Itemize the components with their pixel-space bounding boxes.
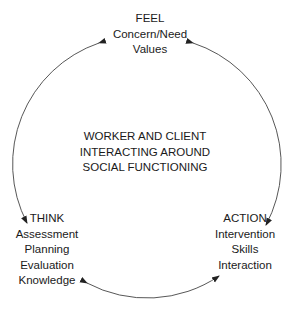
node-action-item: Interaction [200, 258, 289, 274]
node-think-item: Planning [2, 242, 92, 258]
center-line: WORKER AND CLIENT [60, 129, 230, 145]
node-feel: FEEL Concern/Need Values [95, 11, 205, 58]
node-think-item: Knowledge [2, 273, 92, 289]
node-action-title: ACTION [200, 211, 289, 227]
node-feel-item: Values [95, 42, 205, 58]
arc-think-action [87, 276, 219, 298]
node-think-item: Assessment [2, 227, 92, 243]
center-line: SOCIAL FUNCTIONING [60, 160, 230, 176]
node-action-item: Skills [200, 242, 289, 258]
node-think-title: THINK [2, 211, 92, 227]
node-feel-title: FEEL [95, 11, 205, 27]
node-feel-item: Concern/Need [95, 27, 205, 43]
center-label: WORKER AND CLIENT INTERACTING AROUND SOC… [60, 129, 230, 176]
node-think: THINK Assessment Planning Evaluation Kno… [2, 211, 92, 289]
node-action: ACTION Intervention Skills Interaction [200, 211, 289, 273]
node-think-item: Evaluation [2, 258, 92, 274]
node-action-item: Intervention [200, 227, 289, 243]
center-line: INTERACTING AROUND [60, 145, 230, 161]
